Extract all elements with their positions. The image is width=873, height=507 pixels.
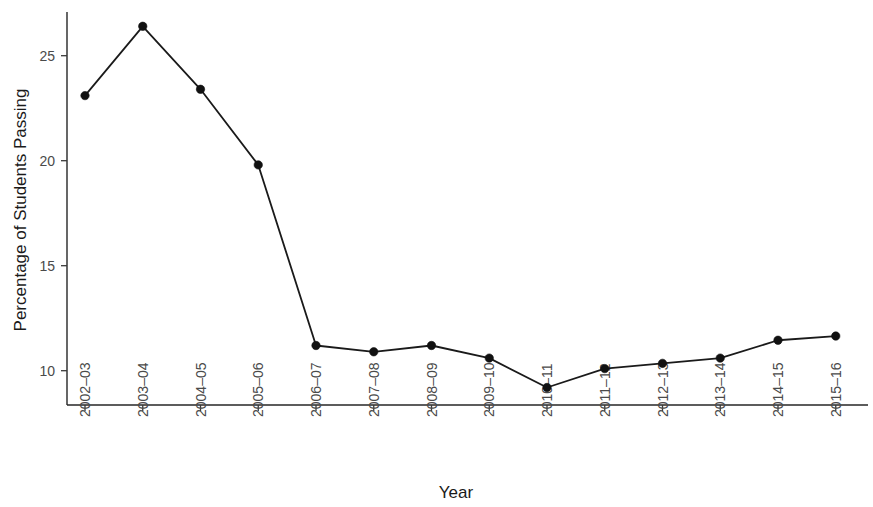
data-point [832, 332, 840, 340]
x-tick-label: 2008–09 [424, 362, 440, 417]
x-tick-label: 2006–07 [308, 362, 324, 417]
data-point [254, 161, 262, 169]
x-tick-label: 2005–06 [250, 362, 266, 417]
data-point [658, 359, 666, 367]
y-axis-title: Percentage of Students Passing [11, 89, 30, 332]
data-point [81, 91, 89, 99]
y-tick-label: 15 [39, 258, 55, 274]
data-point [601, 364, 609, 372]
y-tick-label: 20 [39, 153, 55, 169]
x-axis-title: Year [439, 483, 474, 502]
data-point [196, 85, 204, 93]
x-tick-label: 2003–04 [135, 362, 151, 417]
x-tick-label: 2014–15 [770, 362, 786, 417]
data-point [312, 341, 320, 349]
x-tick-label: 2007–08 [366, 362, 382, 417]
x-tick-label: 2004–05 [193, 362, 209, 417]
chart-background [0, 0, 873, 507]
data-point [370, 348, 378, 356]
x-tick-label: 2009–10 [481, 362, 497, 417]
x-tick-label: 2002–03 [77, 362, 93, 417]
data-point [485, 354, 493, 362]
line-chart: 10152025 2002–032003–042004–052005–06200… [0, 0, 873, 507]
y-tick-label: 25 [39, 48, 55, 64]
data-point [716, 354, 724, 362]
x-tick-label: 2015–16 [828, 362, 844, 417]
x-tick-label: 2013–14 [712, 362, 728, 417]
y-tick-label: 10 [39, 363, 55, 379]
data-point [427, 341, 435, 349]
x-tick-label: 2012–13 [655, 362, 671, 417]
data-point [139, 22, 147, 30]
data-point [774, 336, 782, 344]
data-point [543, 383, 551, 391]
chart-canvas: 10152025 2002–032003–042004–052005–06200… [0, 0, 873, 507]
